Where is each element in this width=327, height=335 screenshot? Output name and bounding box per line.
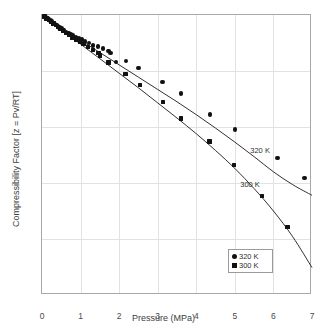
square-marker-icon	[232, 263, 237, 268]
legend-item-320k: 320 K	[232, 252, 269, 261]
data-point-320k	[302, 176, 307, 181]
compressibility-factor-chart: 0123456710.90.80.70.60.5320 K300 K Compr…	[0, 0, 327, 335]
data-point-320k	[96, 44, 101, 49]
curve-label-320k: 320 K	[250, 146, 270, 155]
data-point-300k	[123, 72, 127, 76]
data-point-320k	[101, 46, 106, 51]
data-point-300k	[106, 60, 110, 64]
data-point-300k	[138, 83, 142, 87]
data-point-320k	[275, 156, 280, 161]
x-axis-title: Pressure (MPa)	[0, 313, 327, 323]
fit-curve-300k	[42, 15, 312, 268]
y-axis-title: Compressibility Factor [z = Pv/RT]	[11, 54, 21, 264]
figure-caption	[0, 328, 327, 335]
data-point-320k	[179, 91, 184, 96]
legend-label-320k: 320 K	[239, 252, 259, 261]
data-point-300k	[98, 53, 102, 57]
data-point-300k	[179, 116, 183, 120]
data-point-300k	[91, 48, 95, 52]
data-point-300k	[285, 225, 289, 229]
legend-item-300k: 300 K	[232, 261, 269, 270]
data-point-300k	[232, 163, 236, 167]
data-point-300k	[260, 194, 264, 198]
data-point-300k	[161, 100, 165, 104]
legend-label-300k: 300 K	[239, 261, 259, 270]
chart-legend: 320 K 300 K	[228, 249, 273, 273]
data-point-320k	[91, 43, 96, 48]
data-point-300k	[207, 139, 211, 143]
data-point-320k	[233, 127, 238, 132]
data-point-300k	[86, 45, 90, 49]
curve-label-300k: 300 K	[240, 180, 260, 189]
circle-marker-icon	[232, 254, 237, 259]
